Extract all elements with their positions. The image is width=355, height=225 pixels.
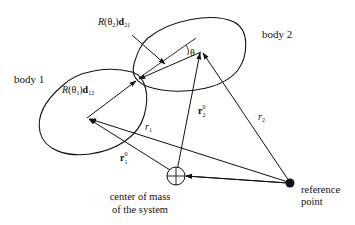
vector-r2	[203, 53, 289, 181]
label-r1: r1	[145, 121, 152, 133]
vector-r2-0	[176, 53, 200, 176]
theta-arc	[186, 45, 189, 55]
label-center-of-mass-line2: of the system	[112, 204, 168, 215]
center-of-mass-icon	[167, 167, 185, 185]
leader-R-theta2-d21	[132, 35, 165, 64]
label-R-theta1-d12: R(θ1)d12	[61, 84, 94, 96]
label-R-theta2-d21: R(θ2)d21	[97, 16, 130, 28]
label-center-of-mass-line1: center of mass	[110, 191, 171, 202]
reference-point-icon	[286, 179, 295, 188]
label-body-2: body 2	[262, 28, 292, 40]
label-reference-line1: reference	[301, 184, 340, 195]
vector-r1	[90, 119, 288, 182]
label-reference-line2: point	[301, 196, 323, 207]
label-body-1: body 1	[14, 73, 44, 85]
label-r2-0: r02	[198, 104, 205, 118]
body-1-outline	[39, 69, 146, 154]
label-r1-0: r01	[120, 151, 127, 165]
label-r2: r2	[258, 111, 265, 123]
two-body-diagram: body 1 body 2 R(θ2)d21 R(θ1)d12 θ r1 r2 …	[0, 0, 355, 225]
label-theta: θ	[190, 47, 195, 58]
vector-R-theta1-d12	[87, 81, 136, 118]
vector-r1-0	[89, 119, 170, 170]
